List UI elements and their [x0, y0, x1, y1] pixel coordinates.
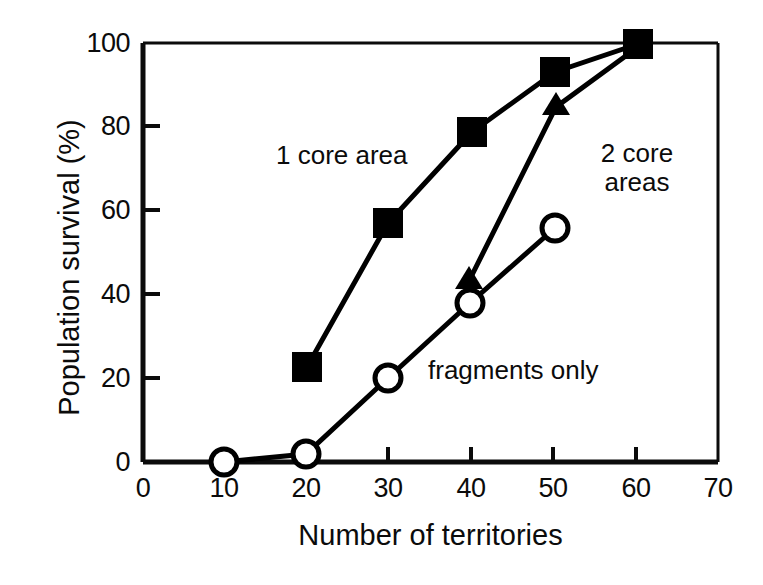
- data-point-marker: [457, 290, 483, 316]
- data-point-marker: [542, 215, 568, 241]
- axes-frame: [143, 43, 718, 462]
- series-fragments-only: [211, 215, 568, 475]
- chart-figure: 0 20 40 60 80 100 0 10 20 30 40 50 60 70…: [0, 0, 763, 585]
- y-axis-ticks: [143, 126, 160, 378]
- x-axis-title: Number of territories: [143, 519, 718, 552]
- data-point-marker: [455, 266, 483, 289]
- data-point-marker: [292, 352, 322, 382]
- data-point-marker: [540, 57, 570, 87]
- x-tick-label-30: 30: [373, 473, 402, 504]
- data-point-marker: [623, 29, 653, 59]
- data-point-marker: [542, 92, 570, 115]
- series-label-one-core-area: 1 core area: [276, 141, 408, 170]
- y-tick-label-100: 100: [55, 28, 130, 59]
- series-label-fragments-only: fragments only: [428, 356, 599, 385]
- y-axis-title: Population survival (%): [53, 58, 86, 478]
- x-tick-label-10: 10: [209, 473, 238, 504]
- x-tick-label-50: 50: [538, 473, 567, 504]
- x-tick-label-20: 20: [291, 473, 320, 504]
- data-point-marker: [375, 365, 401, 391]
- x-tick-label-0: 0: [136, 473, 151, 504]
- data-point-marker: [293, 441, 319, 467]
- series-one-core-area: [292, 29, 653, 382]
- x-tick-label-40: 40: [456, 473, 485, 504]
- x-tick-label-70: 70: [703, 473, 732, 504]
- data-point-marker: [373, 208, 403, 238]
- data-point-marker: [457, 117, 487, 147]
- series-line-fragments-only: [224, 228, 555, 462]
- series-label-two-core-areas: 2 core areas: [578, 139, 696, 198]
- series-line-one-core-area: [307, 44, 638, 367]
- data-point-marker: [211, 449, 237, 475]
- x-tick-label-60: 60: [621, 473, 650, 504]
